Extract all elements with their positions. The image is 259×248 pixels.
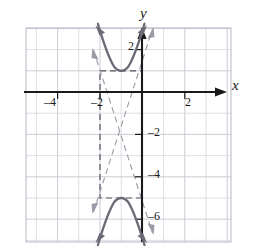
plot-canvas bbox=[0, 0, 259, 248]
y-tick-label-minus-4: –4 bbox=[148, 168, 160, 180]
y-tick-label-minus-2: –2 bbox=[148, 126, 160, 138]
x-axis-label: x bbox=[232, 78, 239, 93]
y-tick-label-minus-6: –6 bbox=[148, 210, 160, 222]
plot-background bbox=[26, 28, 231, 242]
x-tick-label-minus-2: –2 bbox=[91, 96, 103, 108]
x-tick-label-2: 2 bbox=[185, 96, 191, 108]
y-axis-label: y bbox=[140, 6, 147, 21]
x-tick-label-minus-4: –4 bbox=[44, 96, 56, 108]
y-tick-label-2: 2 bbox=[128, 40, 134, 52]
hyperbola-graph-figure: x y –4 –2 2 2 –2 –4 –6 bbox=[0, 0, 259, 248]
